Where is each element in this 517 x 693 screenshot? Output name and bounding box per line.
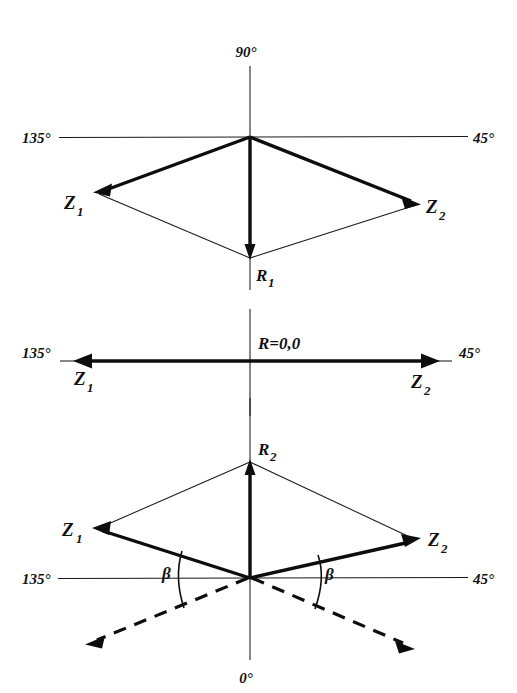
label-r1-subscript-top: 1 <box>268 275 275 290</box>
label-z1-top: Z 1 <box>63 192 84 219</box>
label-z1-subscript-bottom: 1 <box>76 531 83 546</box>
label-z1-bottom: Z 1 <box>61 519 83 546</box>
label-z1-middle: Z 1 <box>73 368 94 395</box>
label-beta-left: β <box>161 564 171 583</box>
label-z2-middle: Z 2 <box>410 371 431 398</box>
vector-z1-arrowhead-top <box>93 184 112 197</box>
horizontal-axis-line-bottom <box>58 578 468 579</box>
label-z1-subscript-top: 1 <box>77 204 84 219</box>
label-beta-right: β <box>324 565 334 584</box>
label-45-degrees-top: 45° <box>472 130 494 146</box>
label-r1-letter-top: R <box>255 266 267 285</box>
panel-bottom: 135° 45° 0° β β Z 1 Z 2 R 2 <box>22 398 494 686</box>
parallelogram-side-left-bottom <box>99 462 250 528</box>
angle-arc-beta-left <box>178 551 184 608</box>
label-z1-letter-bottom: Z <box>61 519 74 540</box>
label-45-degrees-middle: 45° <box>458 345 480 361</box>
vector-diagram-figure: 90° 135° 45° Z 1 Z 2 R 1 135° 45° R=0,0 <box>0 0 517 693</box>
vector-r1-arrowhead-top <box>245 244 256 260</box>
label-z2-letter-top: Z <box>425 196 438 217</box>
label-r2-subscript-bottom: 2 <box>269 449 277 464</box>
horizontal-axis-line-top <box>59 137 468 138</box>
dashed-vector-right-shaft <box>252 578 403 643</box>
parallelogram-side-right-top <box>250 205 416 258</box>
label-z2-subscript-bottom: 2 <box>440 541 448 556</box>
label-z2-subscript-top: 2 <box>438 208 446 223</box>
label-r1-top: R 1 <box>255 266 275 290</box>
label-r2-bottom: R 2 <box>257 440 277 464</box>
label-z1-subscript-middle: 1 <box>87 380 94 395</box>
label-z2-bottom: Z 2 <box>427 529 448 556</box>
panel-top: 90° 135° 45° Z 1 Z 2 R 1 <box>22 44 494 290</box>
vector-z1-shaft-bottom <box>103 531 250 578</box>
label-90-degrees: 90° <box>236 44 257 60</box>
parallelogram-side-left-top <box>99 194 250 258</box>
label-z1-letter-middle: Z <box>73 368 86 389</box>
vector-z1-arrowhead-middle <box>73 354 92 369</box>
label-0-degrees: 0° <box>239 670 253 686</box>
dashed-vector-right-arrowhead <box>395 641 415 654</box>
vector-z1-shaft-top <box>103 137 250 191</box>
parallelogram-side-right-bottom <box>250 462 414 539</box>
label-135-degrees-middle: 135° <box>22 345 51 361</box>
vector-z2-arrowhead-middle <box>421 354 440 369</box>
dashed-vector-left-shaft <box>97 578 248 640</box>
label-135-degrees-bottom: 135° <box>22 571 51 587</box>
label-z2-subscript-middle: 2 <box>423 383 431 398</box>
label-45-degrees-bottom: 45° <box>472 571 494 587</box>
vector-z2-arrowhead-top <box>401 196 421 209</box>
label-135-degrees-top: 135° <box>22 130 51 146</box>
label-z2-letter-middle: Z <box>410 371 423 392</box>
label-z2-letter-bottom: Z <box>427 529 440 550</box>
label-resultant-zero: R=0,0 <box>257 334 301 353</box>
vector-z1-arrowhead-bottom <box>92 521 111 535</box>
figure-canvas: 90° 135° 45° Z 1 Z 2 R 1 135° 45° R=0,0 <box>0 0 517 693</box>
label-r2-letter-bottom: R <box>257 440 269 459</box>
panel-middle: 135° 45° R=0,0 Z 1 Z 2 <box>22 309 480 416</box>
dashed-vector-left-arrowhead <box>85 636 105 649</box>
label-z2-top: Z 2 <box>425 196 446 223</box>
vector-r2-arrowhead-bottom <box>245 459 256 475</box>
vector-z2-shaft-top <box>250 137 411 201</box>
label-z1-letter-top: Z <box>63 192 76 213</box>
